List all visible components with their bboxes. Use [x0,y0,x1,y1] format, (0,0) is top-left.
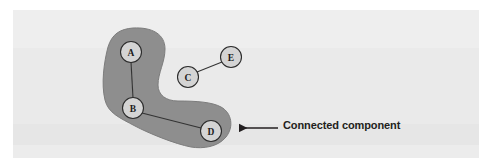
edge-c-e [197,62,222,72]
node-a[interactable] [121,42,142,63]
connected-component-caption: Connected component [283,119,400,131]
node-e[interactable] [221,47,242,68]
node-d[interactable] [201,121,222,142]
graph-diagram: A B C D E [0,0,492,167]
node-c[interactable] [178,67,199,88]
node-b[interactable] [123,98,144,119]
figure-screenshot: A B C D E Connected component [0,0,492,167]
